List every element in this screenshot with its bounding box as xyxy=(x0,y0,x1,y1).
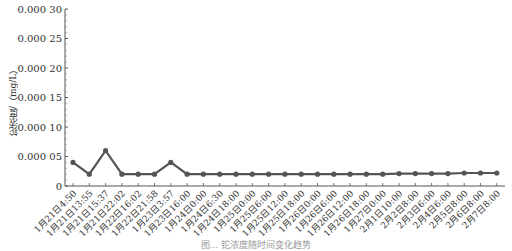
data-point xyxy=(201,172,206,177)
data-point xyxy=(478,170,483,175)
data-point xyxy=(445,171,450,176)
data-series xyxy=(70,148,499,177)
y-tick-label: 0.000 20 xyxy=(17,63,62,74)
data-point xyxy=(152,172,157,177)
data-point xyxy=(331,172,336,177)
data-point xyxy=(299,172,304,177)
data-point xyxy=(396,171,401,176)
data-point xyxy=(315,172,320,177)
series-line xyxy=(73,151,497,175)
data-point xyxy=(168,160,173,165)
data-point xyxy=(348,172,353,177)
data-point xyxy=(494,170,499,175)
data-point xyxy=(217,172,222,177)
data-point xyxy=(413,171,418,176)
data-point xyxy=(103,148,108,153)
data-point xyxy=(233,172,238,177)
y-axis-label: 铊浓度/（mg/L） xyxy=(6,60,20,140)
data-point xyxy=(380,172,385,177)
y-tick-label: 0.000 25 xyxy=(17,33,62,44)
figure-caption: 图… 铊浓度随时间变化趋势 xyxy=(0,238,512,251)
x-axis-ticks: 1月21日4:501月21日13:551月21日15:371月21日22:021… xyxy=(32,183,502,239)
y-tick-label: 0.000 10 xyxy=(17,122,62,133)
y-tick-label: 0 xyxy=(56,181,62,192)
data-point xyxy=(119,172,124,177)
y-tick-label: 0.000 05 xyxy=(17,151,62,162)
y-tick-label: 0.000 30 xyxy=(17,4,62,15)
data-point xyxy=(429,171,434,176)
data-point xyxy=(462,170,467,175)
data-point xyxy=(136,172,141,177)
data-point xyxy=(70,160,75,165)
data-point xyxy=(185,172,190,177)
data-point xyxy=(87,172,92,177)
data-point xyxy=(364,172,369,177)
axes xyxy=(65,9,505,186)
data-point xyxy=(266,172,271,177)
data-point xyxy=(250,172,255,177)
y-tick-label: 0.000 15 xyxy=(17,92,62,103)
y-axis-ticks: 00.000 050.000 100.000 150.000 200.000 2… xyxy=(17,4,68,192)
data-point xyxy=(282,172,287,177)
